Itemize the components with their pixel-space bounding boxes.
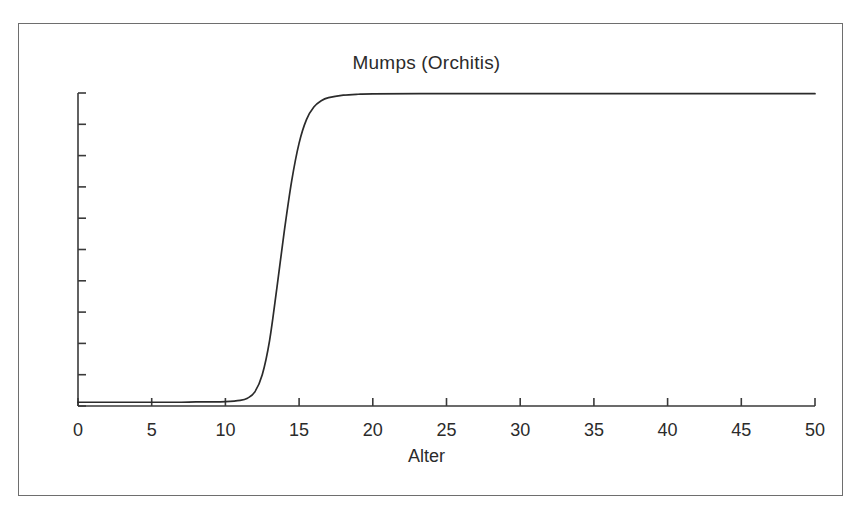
x-axis-tick-label: 20 [363, 420, 383, 441]
x-axis-tick-label: 10 [215, 420, 235, 441]
series-line-mumps-orchitis [78, 94, 815, 403]
x-axis-tick-label: 50 [805, 420, 825, 441]
x-axis-label: Alter [0, 446, 853, 467]
x-axis-tick-label: 5 [147, 420, 157, 441]
x-axis-tick-label: 45 [731, 420, 751, 441]
chart-vector-layer [0, 0, 853, 513]
plot-area: Mumps (Orchitis) 05101520253035404550 Al… [0, 0, 853, 513]
x-axis-tick-label: 30 [510, 420, 530, 441]
y-axis-ticks [78, 93, 86, 406]
x-axis-tick-label: 25 [436, 420, 456, 441]
x-axis-tick-label: 40 [658, 420, 678, 441]
figure-container: Mumps (Orchitis) 05101520253035404550 Al… [0, 0, 853, 513]
x-axis-tick-label: 35 [584, 420, 604, 441]
x-axis-tick-label: 15 [289, 420, 309, 441]
x-axis-tick-label: 0 [73, 420, 83, 441]
